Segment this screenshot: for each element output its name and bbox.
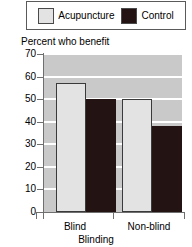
y-axis-tick-label: 10 bbox=[2, 184, 36, 194]
bar-acupuncture-blind bbox=[56, 83, 86, 212]
bar-group-blind bbox=[56, 54, 116, 212]
bar-control-blind bbox=[86, 99, 116, 212]
y-axis-tick-label-wrap: 0 bbox=[0, 207, 36, 217]
y-axis-tick bbox=[37, 122, 44, 123]
chart-axis-title-x: Blinding bbox=[0, 234, 192, 245]
x-axis-line bbox=[36, 212, 184, 213]
x-axis-tick bbox=[113, 212, 114, 219]
y-axis-tick-label-wrap: 30 bbox=[0, 139, 36, 149]
y-axis-tick-label-wrap: 20 bbox=[0, 162, 36, 172]
y-axis-tick-label-wrap: 10 bbox=[0, 184, 36, 194]
legend-label-acupuncture: Acupuncture bbox=[58, 11, 114, 21]
y-axis-tick bbox=[37, 77, 44, 78]
y-axis-tick-label: 30 bbox=[2, 139, 36, 149]
chart-legend: Acupuncture Control bbox=[26, 1, 186, 30]
legend-entry-acupuncture: Acupuncture bbox=[38, 8, 114, 24]
bar-control-non-blind bbox=[152, 126, 182, 212]
y-axis-tick bbox=[37, 54, 44, 55]
y-axis-tick bbox=[37, 189, 44, 190]
y-axis-tick bbox=[37, 167, 44, 168]
y-axis-tick bbox=[37, 144, 44, 145]
y-axis-tick-label-wrap: 70 bbox=[0, 49, 36, 59]
y-axis-tick-label: 60 bbox=[2, 72, 36, 82]
x-axis-tick bbox=[36, 212, 37, 219]
legend-entry-control: Control bbox=[121, 8, 173, 24]
y-axis-tick bbox=[37, 99, 44, 100]
bars-layer bbox=[44, 54, 182, 212]
bar-acupuncture-non-blind bbox=[122, 99, 152, 212]
y-axis-tick-label: 0 bbox=[2, 207, 36, 217]
y-axis-tick-label-wrap: 50 bbox=[0, 94, 36, 104]
plot-area bbox=[44, 54, 182, 212]
y-axis-tick bbox=[37, 212, 44, 213]
x-axis-tick-label: Blind bbox=[35, 221, 115, 232]
chart-axis-title-y: Percent who benefit bbox=[21, 36, 109, 47]
y-axis-line bbox=[43, 53, 44, 219]
y-axis-tick-label: 50 bbox=[2, 94, 36, 104]
x-axis-tick-label: Non-blind bbox=[109, 221, 189, 232]
y-axis-tick-label: 40 bbox=[2, 117, 36, 127]
x-axis-tick bbox=[184, 212, 185, 219]
y-axis-tick-label-wrap: 60 bbox=[0, 72, 36, 82]
y-axis-tick-label-wrap: 40 bbox=[0, 117, 36, 127]
bar-group-non-blind bbox=[122, 54, 182, 212]
y-axis-tick-label: 70 bbox=[2, 49, 36, 59]
y-axis-tick-label: 20 bbox=[2, 162, 36, 172]
legend-swatch-acupuncture bbox=[38, 8, 54, 24]
legend-swatch-control bbox=[121, 8, 137, 24]
legend-label-control: Control bbox=[141, 11, 173, 21]
